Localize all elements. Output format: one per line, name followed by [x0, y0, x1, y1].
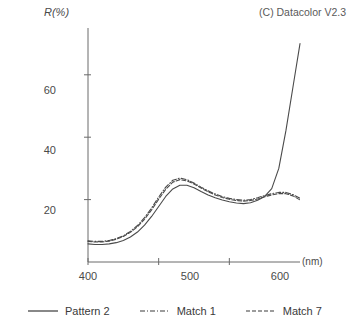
x-tick-label-400: 400: [71, 270, 105, 282]
y-axis-title: R(%): [44, 6, 69, 18]
legend-swatch-dashed: [246, 306, 276, 316]
x-tick-label-500: 500: [173, 270, 207, 282]
legend-label-pattern-2: Pattern 2: [65, 305, 110, 317]
x-tick-label-600: 600: [263, 270, 297, 282]
x-axis-unit-label: (nm): [302, 256, 323, 267]
series-line-match-7: [88, 180, 300, 242]
legend-label-match-1: Match 1: [177, 305, 216, 317]
credit-label: (C) Datacolor V2.3: [259, 6, 346, 18]
y-tick-label-60: 60: [30, 84, 56, 96]
legend-swatch-dash-dot: [140, 306, 170, 316]
legend-item-pattern-2: Pattern 2: [28, 305, 110, 317]
data-series-group: [88, 44, 300, 245]
axis-lines: [88, 28, 300, 262]
y-tick-label-20: 20: [30, 204, 56, 216]
chart-figure: R(%) (C) Datacolor V2.3 60 40 20 400 500…: [0, 0, 354, 335]
y-tick-label-40: 40: [30, 144, 56, 156]
legend-item-match-7: Match 7: [246, 305, 322, 317]
series-line-pattern-2: [88, 44, 300, 245]
chart-legend: Pattern 2 Match 1 Match 7: [0, 300, 354, 322]
legend-swatch-solid: [28, 306, 58, 316]
legend-item-match-1: Match 1: [140, 305, 216, 317]
legend-label-match-7: Match 7: [283, 305, 322, 317]
